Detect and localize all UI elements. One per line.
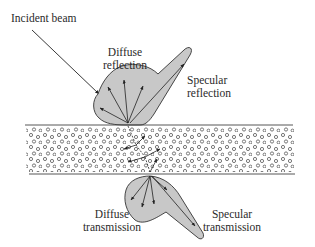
label-specular-transmission: Specular transmission (202, 208, 262, 233)
scattering-medium (26, 127, 294, 172)
label-specular-transmission-line1: Specular (202, 208, 262, 221)
label-diffuse-reflection: Diffuse reflection (100, 46, 150, 71)
label-incident-beam: Incident beam (11, 12, 76, 25)
label-diffuse-reflection-line2: reflection (100, 59, 150, 72)
label-specular-transmission-line2: transmission (202, 221, 262, 234)
label-specular-reflection-line1: Specular (187, 74, 231, 87)
label-specular-reflection: Specular reflection (187, 74, 231, 99)
label-diffuse-transmission-line2: transmission (82, 221, 142, 234)
label-diffuse-transmission: Diffuse transmission (82, 208, 142, 233)
incident-beam-arrow (32, 30, 99, 94)
label-specular-reflection-line2: reflection (187, 87, 231, 100)
scattering-diagram (0, 0, 315, 247)
label-diffuse-reflection-line1: Diffuse (100, 46, 150, 59)
label-diffuse-transmission-line1: Diffuse (82, 208, 142, 221)
